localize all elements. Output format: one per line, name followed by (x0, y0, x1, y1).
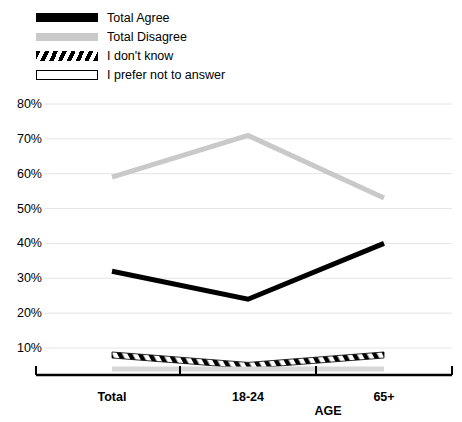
legend-item-total-disagree: Total Disagree (36, 27, 296, 46)
series-line-total-agree (112, 243, 384, 299)
legend-label-total-agree: Total Agree (107, 11, 170, 25)
x-axis-label-total: Total (62, 390, 162, 404)
x-axis (0, 360, 462, 390)
x-axis-label-65-: 65+ (334, 390, 434, 404)
x-axis-title: AGE (288, 404, 368, 418)
legend-label-i-dont-know: I don't know (107, 49, 173, 63)
plot-area: 80%70%60%50%40%30%20%10% (0, 95, 462, 385)
data-series-layer (0, 95, 462, 385)
chart-container: Total Agree Total Disagree I don't know … (0, 0, 462, 422)
legend-item-total-agree: Total Agree (36, 8, 296, 27)
chart-legend: Total Agree Total Disagree I don't know … (36, 8, 296, 84)
legend-swatch-total-disagree (36, 33, 98, 41)
series-line-total-disagree (112, 135, 384, 198)
legend-label-i-prefer-not-to-answer: I prefer not to answer (107, 68, 225, 82)
legend-item-i-prefer-not-to-answer: I prefer not to answer (36, 65, 296, 84)
legend-swatch-i-prefer-not-to-answer (36, 70, 98, 80)
legend-item-i-dont-know: I don't know (36, 46, 296, 65)
x-axis-label-18-24: 18-24 (198, 390, 298, 404)
legend-swatch-total-agree (36, 13, 98, 22)
legend-swatch-i-dont-know (36, 51, 98, 61)
legend-label-total-disagree: Total Disagree (107, 30, 187, 44)
x-axis-labels: Total18-2465+ (0, 390, 462, 410)
